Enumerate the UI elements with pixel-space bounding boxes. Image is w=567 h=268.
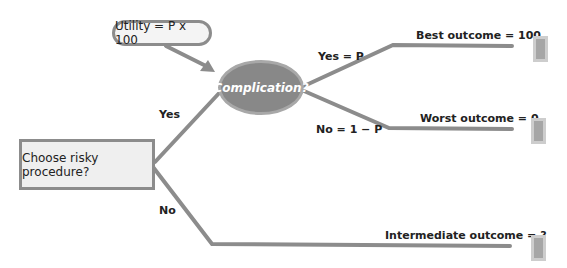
terminal-node-best [533, 36, 548, 62]
outcome-intermediate-label: Intermediate outcome = ? [385, 229, 547, 242]
outcome-best-label: Best outcome = 100 [416, 29, 541, 42]
utility-note: Utility = P x 100 [112, 20, 212, 46]
chance-yes-label: Yes = P [318, 50, 364, 63]
chance-no-label: No = 1 − P [316, 123, 382, 136]
branch-no-label: No [159, 204, 176, 217]
branch-yes-label: Yes [159, 108, 180, 121]
outcome-worst-label: Worst outcome = 0 [420, 112, 539, 125]
chance-node: Complication? [218, 60, 304, 115]
terminal-node-intermediate [531, 235, 546, 261]
terminal-node-worst [531, 118, 546, 144]
decision-node: Choose risky procedure? [19, 139, 155, 190]
